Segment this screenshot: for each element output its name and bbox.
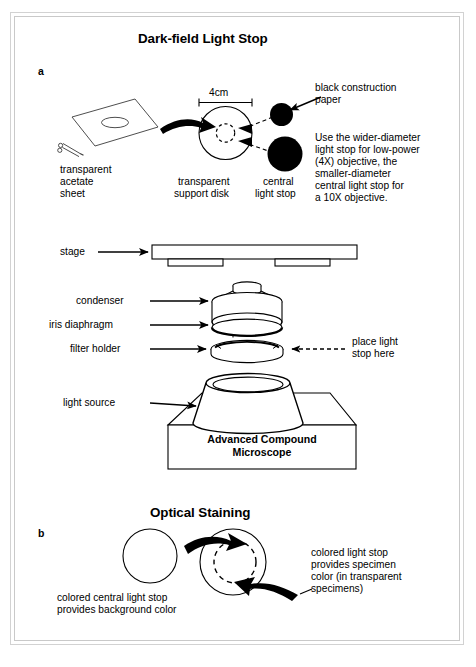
curved-arrow-top-icon bbox=[184, 533, 247, 554]
acetate-sheet-drawing bbox=[72, 99, 158, 146]
panel-b-right-caption-line-1: colored light stop bbox=[311, 547, 388, 558]
panel-b-title: Optical Staining bbox=[150, 507, 250, 518]
filter-holder-drawing bbox=[211, 340, 283, 362]
place-stop-callout-line-2: stop here bbox=[352, 348, 394, 359]
base-caption-line-2: Microscope bbox=[182, 446, 342, 459]
panel-b-left-caption-line-1: colored central light stop bbox=[57, 592, 167, 603]
instruction-line-5: central light stop for bbox=[315, 180, 404, 192]
instruction-line-6: a 10X objective. bbox=[315, 192, 388, 204]
panel-a-title: Dark-field Light Stop bbox=[138, 33, 268, 44]
central-stop-label-line-1: central bbox=[263, 176, 294, 187]
light-source-drawing bbox=[193, 374, 303, 434]
label-light-source: light source bbox=[63, 397, 115, 408]
support-disk-drawing bbox=[199, 107, 252, 160]
panel-b-right-caption-line-2: provides specimen bbox=[311, 559, 396, 570]
instruction-line-4: smaller-diameter bbox=[315, 168, 391, 180]
iris-diaphragm-drawing bbox=[212, 319, 282, 337]
panel-b-right-caption-line-4: specimens) bbox=[311, 583, 363, 594]
label-filter-holder: filter holder bbox=[70, 343, 120, 354]
panel-b-left-caption-line-2: provides background color bbox=[57, 604, 177, 615]
base-caption-line-1: Advanced Compound bbox=[182, 433, 342, 446]
paper-label-line-1: black construction bbox=[315, 82, 397, 93]
instruction-line-1: Use the wider-diameter bbox=[315, 132, 420, 144]
support-disk-label-line-1: transparent bbox=[178, 176, 230, 187]
plain-light-stop-circle bbox=[123, 529, 177, 583]
curved-arrow-bottom-icon bbox=[234, 577, 298, 601]
dimension-line-4cm bbox=[199, 99, 252, 107]
figure-root: Dark-field Light Stop a 4cm transparent … bbox=[0, 0, 476, 667]
instruction-line-3: (4X) objective, the bbox=[315, 156, 397, 168]
light-stop-small-disc bbox=[270, 103, 293, 126]
label-condenser: condenser bbox=[76, 295, 124, 306]
dimension-label: 4cm bbox=[209, 87, 228, 98]
panel-a-letter: a bbox=[38, 66, 44, 77]
light-stop-large-disc bbox=[268, 137, 303, 172]
place-stop-callout-line-1: place light bbox=[352, 336, 398, 347]
stage-drawing bbox=[152, 245, 357, 266]
support-disk-label-line-2: support disk bbox=[174, 188, 229, 199]
panel-b-right-caption-line-3: color (in transparent bbox=[311, 571, 402, 582]
acetate-label-line-1: transparent bbox=[60, 164, 112, 175]
paper-label-line-2: paper bbox=[315, 94, 341, 105]
transfer-arrow-icon bbox=[160, 117, 216, 134]
diagram-artwork bbox=[0, 0, 476, 667]
central-stop-label-line-2: light stop bbox=[255, 188, 296, 199]
label-iris-diaphragm: iris diaphragm bbox=[49, 319, 113, 330]
instruction-line-2: light stop for low-power bbox=[315, 144, 420, 156]
panel-b-letter: b bbox=[38, 528, 44, 539]
leader-lines bbox=[238, 117, 274, 153]
acetate-label-line-3: sheet bbox=[60, 188, 85, 199]
label-stage: stage bbox=[60, 246, 85, 257]
acetate-label-line-2: acetate bbox=[60, 176, 93, 187]
scissors-icon bbox=[58, 143, 84, 156]
